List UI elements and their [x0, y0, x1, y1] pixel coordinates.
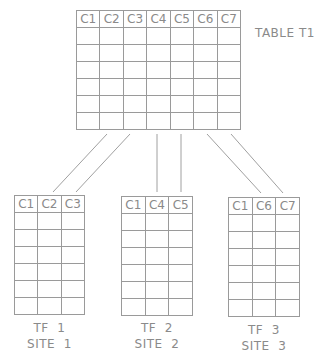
table-cell — [194, 45, 217, 62]
table-cell — [217, 45, 240, 62]
table-row — [229, 232, 300, 249]
table-cell — [145, 214, 169, 231]
table-cell — [276, 283, 300, 300]
table-cell — [122, 265, 146, 282]
table-row — [122, 214, 193, 231]
fragment-header: C1 C6 C7 — [229, 198, 300, 215]
connector-tf3-b — [231, 134, 283, 193]
table-cell — [38, 247, 61, 264]
table-cell — [229, 249, 253, 266]
table-row — [77, 113, 241, 130]
column-header: C6 — [194, 11, 217, 28]
fragment-header: C1 C2 C3 — [15, 196, 85, 213]
table-cell — [77, 96, 100, 113]
table-cell — [169, 299, 193, 316]
table-cell — [252, 249, 276, 266]
table-cell — [276, 300, 300, 317]
column-header: C2 — [100, 11, 123, 28]
column-header: C5 — [170, 11, 193, 28]
table-cell — [38, 213, 61, 230]
table-cell — [100, 62, 123, 79]
table-cell — [15, 264, 38, 281]
table-cell — [145, 248, 169, 265]
fragment-site-label-2: SITE 2 — [121, 337, 193, 351]
table-row — [122, 282, 193, 299]
table-row — [77, 96, 241, 113]
table-cell — [170, 45, 193, 62]
main-table-t1: C1 C2 C3 C4 C5 C6 C7 — [76, 10, 241, 130]
column-header: C3 — [61, 196, 84, 213]
table-cell — [147, 79, 170, 96]
table-cell — [169, 248, 193, 265]
table-cell — [15, 247, 38, 264]
table-cell — [170, 96, 193, 113]
connector-tf3-a — [207, 134, 261, 193]
table-cell — [276, 232, 300, 249]
table-row — [229, 283, 300, 300]
table-cell — [77, 62, 100, 79]
fragment-body — [229, 215, 300, 317]
table-row — [15, 281, 85, 298]
table-cell — [38, 298, 61, 315]
table-cell — [123, 96, 146, 113]
table-cell — [61, 247, 84, 264]
table-cell — [217, 96, 240, 113]
column-header: C4 — [147, 11, 170, 28]
table-cell — [170, 62, 193, 79]
table-cell — [77, 28, 100, 45]
fragment-label-tf2: TF 2 — [121, 321, 193, 335]
table-cell — [145, 265, 169, 282]
table-cell — [38, 230, 61, 247]
fragment-site-label-1: SITE 1 — [14, 337, 85, 351]
table-cell — [77, 113, 100, 130]
column-header: C1 — [15, 196, 38, 213]
table-row — [77, 45, 241, 62]
table-cell — [169, 214, 193, 231]
table-cell — [147, 113, 170, 130]
table-cell — [229, 283, 253, 300]
table-row — [15, 230, 85, 247]
connector-tf1-a — [53, 134, 107, 192]
table-cell — [61, 281, 84, 298]
table-row — [15, 247, 85, 264]
table-cell — [229, 215, 253, 232]
table-cell — [252, 232, 276, 249]
fragment-table-tf3: C1 C6 C7 — [228, 197, 300, 317]
table-cell — [38, 264, 61, 281]
column-header: C7 — [217, 11, 240, 28]
table-cell — [15, 213, 38, 230]
table-cell — [100, 28, 123, 45]
fragment-label-tf3: TF 3 — [228, 323, 300, 337]
connector-tf1-b — [76, 134, 130, 192]
table-cell — [61, 213, 84, 230]
table-cell — [77, 45, 100, 62]
table-cell — [194, 79, 217, 96]
table-cell — [77, 79, 100, 96]
table-cell — [145, 282, 169, 299]
table-cell — [147, 45, 170, 62]
table-row — [122, 248, 193, 265]
table-cell — [100, 96, 123, 113]
table-cell — [123, 28, 146, 45]
table-cell — [123, 45, 146, 62]
column-header: C1 — [77, 11, 100, 28]
table-cell — [123, 62, 146, 79]
table-row — [122, 231, 193, 248]
table-cell — [122, 282, 146, 299]
table-cell — [15, 298, 38, 315]
table-cell — [252, 283, 276, 300]
table-row — [229, 300, 300, 317]
fragment-site-label-3: SITE 3 — [228, 339, 300, 353]
column-header: C6 — [252, 198, 276, 215]
table-cell — [229, 300, 253, 317]
table-cell — [194, 62, 217, 79]
table-row — [77, 62, 241, 79]
table-row — [122, 299, 193, 316]
main-table-header: C1 C2 C3 C4 C5 C6 C7 — [77, 11, 241, 28]
column-header: C1 — [122, 197, 146, 214]
table-cell — [170, 79, 193, 96]
table-cell — [147, 96, 170, 113]
table-row — [15, 213, 85, 230]
table-cell — [123, 79, 146, 96]
fragment-body — [15, 213, 85, 315]
